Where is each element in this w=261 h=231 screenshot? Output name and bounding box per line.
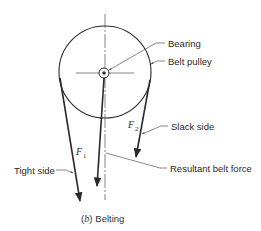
resultant-force-arrow xyxy=(97,78,104,186)
f2-subscript: 2 xyxy=(135,125,139,133)
bearing-center xyxy=(102,71,106,75)
tight-side-leader xyxy=(56,170,73,173)
resultant-label: Resultant belt force xyxy=(170,163,252,174)
belt-pulley-leader xyxy=(151,61,165,64)
f1-symbol: F xyxy=(75,146,83,157)
f1-subscript: 1 xyxy=(83,152,87,160)
belting-diagram: Bearing Belt pulley Slack side Resultant… xyxy=(0,0,261,231)
tight-side-label: Tight side xyxy=(14,165,55,176)
slack-side-leader xyxy=(142,126,168,134)
slack-side-belt-arrow xyxy=(136,80,150,157)
caption: (b)Belting xyxy=(81,213,124,224)
bearing-label: Bearing xyxy=(168,38,201,49)
tight-side-belt-arrow xyxy=(60,78,80,201)
slack-side-label: Slack side xyxy=(171,121,214,132)
belt-pulley-label: Belt pulley xyxy=(168,56,212,67)
f2-symbol: F xyxy=(127,119,135,130)
bearing-leader xyxy=(109,43,165,70)
